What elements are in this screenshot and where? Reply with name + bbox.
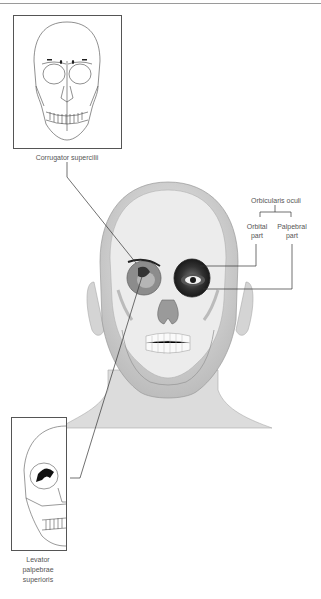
levator-label-1: Levator — [8, 555, 68, 564]
levator-muscle-inset — [36, 468, 54, 482]
orbicularis-label: Orbicularis oculi — [244, 196, 308, 205]
levator-label-2: palpebrae — [8, 565, 68, 574]
palpebral-part-label-1: Palpebral — [272, 222, 312, 231]
levator-label-3: superioris — [8, 575, 68, 584]
right-ear — [236, 282, 253, 335]
orbital-part-label-1: Orbital — [240, 222, 274, 231]
orbital-part-label-2: part — [240, 231, 274, 240]
iris — [190, 277, 196, 283]
orbicularis-bracket — [260, 212, 291, 217]
lateral-skull-drawing — [12, 418, 66, 550]
palpebral-part-label-2: part — [272, 231, 312, 240]
lateral-skull-inset — [11, 417, 67, 551]
